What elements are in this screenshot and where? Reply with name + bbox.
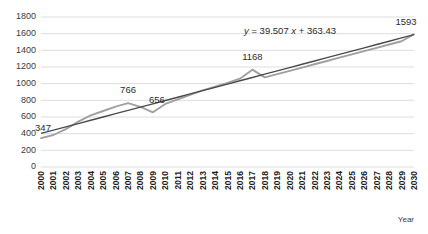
x-tick-2019: 2019	[272, 171, 282, 190]
y-tick-1000: 1000	[16, 78, 36, 88]
x-tick-2000: 2000	[36, 171, 46, 190]
x-tick-2018: 2018	[260, 171, 270, 190]
y-tick-1200: 1200	[16, 61, 36, 71]
x-tick-2013: 2013	[198, 171, 208, 190]
x-tick-2006: 2006	[111, 171, 121, 190]
y-tick-800: 800	[21, 95, 36, 105]
x-tick-2023: 2023	[322, 171, 332, 190]
x-tick-2025: 2025	[347, 171, 357, 190]
y-axis-tick-labels: 020040060080010001200140016001800	[16, 11, 36, 171]
x-tick-2010: 2010	[160, 171, 170, 190]
gridlines-group	[41, 17, 414, 167]
x-tick-2004: 2004	[86, 171, 96, 190]
label-2000: 347	[35, 122, 51, 133]
y-tick-600: 600	[21, 111, 36, 121]
y-tick-1400: 1400	[16, 45, 36, 55]
label-2007: 766	[120, 84, 136, 95]
x-tick-2026: 2026	[359, 171, 369, 190]
x-tick-2020: 2020	[285, 171, 295, 190]
y-tick-1800: 1800	[16, 11, 36, 21]
x-tick-2027: 2027	[372, 171, 382, 190]
x-tick-2002: 2002	[61, 171, 71, 190]
x-tick-2015: 2015	[223, 171, 233, 190]
x-tick-2007: 2007	[123, 171, 133, 190]
x-tick-2021: 2021	[297, 171, 307, 190]
x-tick-2001: 2001	[48, 171, 58, 190]
label-2030: 1593	[395, 16, 416, 27]
y-tick-0: 0	[31, 161, 36, 171]
x-tick-2024: 2024	[334, 171, 344, 190]
label-2009: 656	[149, 94, 165, 105]
x-tick-2008: 2008	[135, 171, 145, 190]
x-tick-2030: 2030	[409, 171, 419, 190]
x-axis-title: Year	[398, 215, 415, 224]
x-tick-2028: 2028	[384, 171, 394, 190]
chart-container: 020040060080010001200140016001800 200020…	[0, 0, 428, 234]
x-tick-2011: 2011	[173, 171, 183, 190]
x-tick-2009: 2009	[148, 171, 158, 190]
x-tick-2016: 2016	[235, 171, 245, 190]
x-axis-tick-labels: 2000200120022003200420052006200720082009…	[36, 171, 419, 190]
x-tick-2022: 2022	[310, 171, 320, 190]
x-tick-2029: 2029	[397, 171, 407, 190]
y-tick-1600: 1600	[16, 28, 36, 38]
y-tick-400: 400	[21, 128, 36, 138]
x-tick-2012: 2012	[185, 171, 195, 190]
x-tick-2003: 2003	[73, 171, 83, 190]
line-chart: 020040060080010001200140016001800 200020…	[0, 0, 428, 234]
y-tick-200: 200	[21, 145, 36, 155]
x-tick-2014: 2014	[210, 171, 220, 190]
data-series-group	[41, 34, 414, 138]
trendline-equation-label: y = 39.507 x + 363.43	[243, 25, 336, 36]
x-tick-2005: 2005	[98, 171, 108, 190]
x-tick-2017: 2017	[247, 171, 257, 190]
label-2017: 1168	[242, 51, 262, 62]
